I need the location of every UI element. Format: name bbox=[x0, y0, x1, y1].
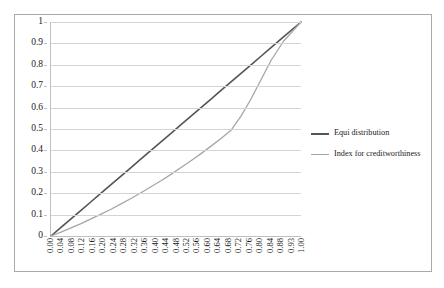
gridline bbox=[51, 150, 301, 151]
x-tick-label: 0.04 bbox=[56, 238, 65, 253]
legend-label: Equi distribution bbox=[334, 129, 389, 137]
y-tick-mark bbox=[44, 172, 47, 173]
x-tick-label: 0.88 bbox=[276, 238, 285, 253]
x-tick-label: 0.84 bbox=[266, 238, 275, 253]
x-tick-label: 0.60 bbox=[203, 238, 212, 253]
legend-swatch-icon bbox=[311, 154, 329, 156]
y-tick-label: 1 bbox=[38, 17, 43, 27]
y-tick-label: 0 bbox=[38, 231, 43, 241]
y-tick-label: 0.2 bbox=[31, 188, 43, 198]
x-tick-label: 0.76 bbox=[245, 238, 254, 253]
gridline bbox=[51, 172, 301, 173]
y-tick-label: 0.1 bbox=[31, 210, 43, 220]
y-tick-mark bbox=[44, 86, 47, 87]
x-tick-label: 0.12 bbox=[77, 238, 86, 253]
y-tick-mark bbox=[44, 193, 47, 194]
x-tick-label: 0.16 bbox=[88, 238, 97, 253]
gridline bbox=[51, 86, 301, 87]
gridline bbox=[51, 193, 301, 194]
legend-item[interactable]: Index for creditworthiness bbox=[311, 146, 431, 163]
x-tick-label: 0.40 bbox=[151, 238, 160, 253]
y-tick-mark bbox=[44, 236, 47, 237]
x-tick-label: 0.56 bbox=[192, 238, 201, 253]
y-tick-label: 0.6 bbox=[31, 103, 43, 113]
x-tick-label: 0.28 bbox=[119, 238, 128, 253]
y-tick-mark bbox=[44, 108, 47, 109]
x-tick-label: 0.36 bbox=[140, 238, 149, 253]
legend-item[interactable]: Equi distribution bbox=[311, 125, 431, 142]
x-tick-label: 0.68 bbox=[224, 238, 233, 253]
x-tick-label: 0.93 bbox=[287, 238, 296, 253]
y-tick-label: 0.3 bbox=[31, 167, 43, 177]
x-axis: 0.000.040.080.120.160.200.240.280.320.36… bbox=[50, 236, 301, 272]
plot-area bbox=[50, 22, 301, 236]
x-tick-label: 0.80 bbox=[255, 238, 264, 253]
y-tick-mark bbox=[44, 215, 47, 216]
y-tick-mark bbox=[44, 22, 47, 23]
x-tick-label: 0.08 bbox=[67, 238, 76, 253]
chart-frame: 00.10.20.30.40.50.60.70.80.91 0.000.040.… bbox=[14, 14, 432, 272]
y-tick-mark bbox=[44, 43, 47, 44]
x-tick-label: 0.24 bbox=[109, 238, 118, 253]
x-tick-label: 0.00 bbox=[46, 238, 55, 253]
y-tick-label: 0.9 bbox=[31, 39, 43, 49]
y-tick-mark bbox=[44, 150, 47, 151]
legend-swatch-icon bbox=[311, 133, 329, 135]
x-tick-label: 0.20 bbox=[98, 238, 107, 253]
x-tick-label: 0.72 bbox=[234, 238, 243, 253]
chart-legend: Equi distributionIndex for creditworthin… bbox=[311, 125, 431, 167]
x-tick-label: 0.44 bbox=[161, 238, 170, 253]
gridline bbox=[51, 129, 301, 130]
legend-label: Index for creditworthiness bbox=[334, 150, 420, 158]
y-tick-label: 0.8 bbox=[31, 60, 43, 70]
y-tick-label: 0.7 bbox=[31, 81, 43, 91]
y-tick-label: 0.4 bbox=[31, 146, 43, 156]
gridline bbox=[51, 108, 301, 109]
y-axis: 00.10.20.30.40.50.60.70.80.91 bbox=[15, 22, 47, 236]
gridline bbox=[51, 43, 301, 44]
x-tick-label: 0.52 bbox=[182, 238, 191, 253]
x-tick-label: 0.64 bbox=[213, 238, 222, 253]
x-tick-label: 0.32 bbox=[130, 238, 139, 253]
x-tick-label: 1.00 bbox=[297, 238, 306, 253]
y-tick-label: 0.5 bbox=[31, 124, 43, 134]
x-tick-label: 0.48 bbox=[172, 238, 181, 253]
gridline bbox=[51, 65, 301, 66]
gridline bbox=[51, 215, 301, 216]
gridline bbox=[51, 22, 301, 23]
y-tick-mark bbox=[44, 65, 47, 66]
y-tick-mark bbox=[44, 129, 47, 130]
